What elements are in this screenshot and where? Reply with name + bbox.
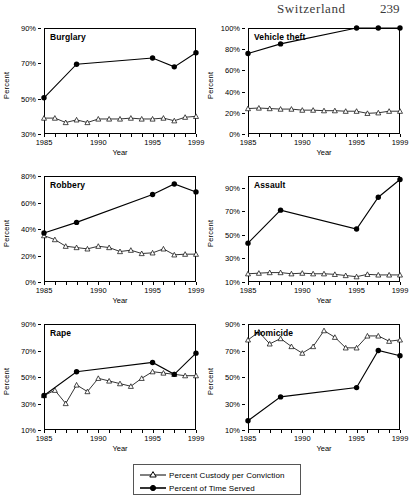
x-tick-mark xyxy=(302,430,303,433)
open-triangle-icon xyxy=(140,470,166,480)
data-point-marker xyxy=(278,394,283,399)
y-tick-label: 70% xyxy=(225,346,240,355)
x-tick-mark xyxy=(248,282,249,285)
x-tick-mark xyxy=(109,134,110,137)
y-tick-label: 80% xyxy=(225,45,240,54)
x-tick-mark xyxy=(378,134,379,137)
series-layer xyxy=(248,28,400,134)
y-axis: 0%20%40%60%80% xyxy=(0,176,41,282)
x-axis-title: Year xyxy=(112,444,127,453)
x-axis-title: Year xyxy=(316,296,331,305)
x-tick-mark xyxy=(185,134,186,137)
data-point-marker xyxy=(150,55,155,60)
x-tick-mark xyxy=(109,430,110,433)
y-tick-label: 10% xyxy=(21,426,36,435)
x-tick-mark xyxy=(131,430,132,433)
x-tick-label: 1985 xyxy=(240,138,257,147)
x-tick-label: 1999 xyxy=(392,434,409,443)
series-layer xyxy=(44,324,196,430)
y-tick-label: 10% xyxy=(225,426,240,435)
x-tick-label: 1985 xyxy=(36,286,53,295)
y-tick-mark xyxy=(242,188,245,189)
y-tick-label: 50% xyxy=(21,94,36,103)
x-tick-mark xyxy=(259,430,260,433)
data-point-marker xyxy=(74,117,79,122)
series-custody-per-conviction xyxy=(246,270,403,279)
x-tick-mark xyxy=(163,430,164,433)
data-point-marker xyxy=(246,337,251,342)
x-tick-mark xyxy=(313,134,314,137)
x-tick-mark xyxy=(378,430,379,433)
y-tick-mark xyxy=(242,211,245,212)
x-tick-mark xyxy=(324,134,325,137)
y-tick-mark xyxy=(242,258,245,259)
x-tick-mark xyxy=(389,430,390,433)
x-axis-title: Year xyxy=(112,296,127,305)
y-tick-label: 30% xyxy=(225,399,240,408)
x-tick-mark xyxy=(357,134,358,137)
y-tick-mark xyxy=(242,92,245,93)
x-tick-mark xyxy=(131,134,132,137)
x-axis: 1985199019951999Year xyxy=(248,282,400,306)
x-tick-mark xyxy=(98,282,99,285)
data-point-marker xyxy=(289,344,294,349)
data-point-marker xyxy=(245,240,250,245)
data-point-marker xyxy=(172,372,177,377)
chart-panel-burglary: Percent30%50%70%90%Burglary1985199019951… xyxy=(0,20,207,166)
x-tick-mark xyxy=(335,430,336,433)
x-tick-mark xyxy=(44,134,45,137)
x-tick-mark xyxy=(400,430,401,433)
y-tick-label: 40% xyxy=(21,225,36,234)
x-tick-label: 1990 xyxy=(294,286,311,295)
x-tick-mark xyxy=(335,134,336,137)
x-axis-title: Year xyxy=(112,148,127,157)
x-tick-mark xyxy=(185,282,186,285)
y-tick-label: 20% xyxy=(21,251,36,260)
legend-item-custody: Percent Custody per Conviction xyxy=(140,469,294,481)
x-tick-mark xyxy=(66,430,67,433)
x-tick-mark xyxy=(163,282,164,285)
x-tick-label: 1990 xyxy=(90,286,107,295)
x-tick-label: 1985 xyxy=(240,286,257,295)
x-tick-mark xyxy=(367,282,368,285)
x-axis: 1985199019951999Year xyxy=(248,134,400,158)
y-tick-label: 40% xyxy=(225,87,240,96)
x-tick-mark xyxy=(335,282,336,285)
y-tick-label: 100% xyxy=(221,24,240,33)
y-axis: 10%30%50%70%90% xyxy=(204,176,245,282)
x-tick-mark xyxy=(44,430,45,433)
y-tick-mark xyxy=(38,430,41,431)
x-axis: 1985199019951999Year xyxy=(44,430,196,454)
data-point-marker xyxy=(74,62,79,67)
x-tick-label: 1990 xyxy=(90,434,107,443)
y-tick-label: 30% xyxy=(21,130,36,139)
x-tick-mark xyxy=(109,282,110,285)
y-tick-label: 0% xyxy=(25,278,36,287)
series-time-served xyxy=(41,50,198,100)
chart-panel-robbery: Percent0%20%40%60%80%Robbery198519901995… xyxy=(0,168,207,314)
data-point-marker xyxy=(96,376,101,381)
x-tick-mark xyxy=(324,430,325,433)
x-tick-mark xyxy=(98,134,99,137)
y-tick-mark xyxy=(242,134,245,135)
y-tick-label: 90% xyxy=(225,183,240,192)
y-tick-label: 60% xyxy=(225,66,240,75)
x-tick-label: 1990 xyxy=(294,434,311,443)
y-tick-mark xyxy=(38,324,41,325)
legend-label-time-served: Percent of Time Served xyxy=(169,484,255,493)
y-tick-mark xyxy=(242,113,245,114)
series-layer xyxy=(44,28,196,134)
data-point-marker xyxy=(245,418,250,423)
y-tick-label: 50% xyxy=(21,373,36,382)
x-tick-mark xyxy=(196,134,197,137)
x-tick-mark xyxy=(270,134,271,137)
y-tick-mark xyxy=(242,324,245,325)
data-point-marker xyxy=(193,350,198,355)
x-tick-mark xyxy=(55,430,56,433)
x-tick-mark xyxy=(291,430,292,433)
data-point-marker xyxy=(397,177,402,182)
y-tick-mark xyxy=(38,176,41,177)
y-tick-mark xyxy=(242,28,245,29)
x-tick-mark xyxy=(389,282,390,285)
x-tick-mark xyxy=(302,134,303,137)
